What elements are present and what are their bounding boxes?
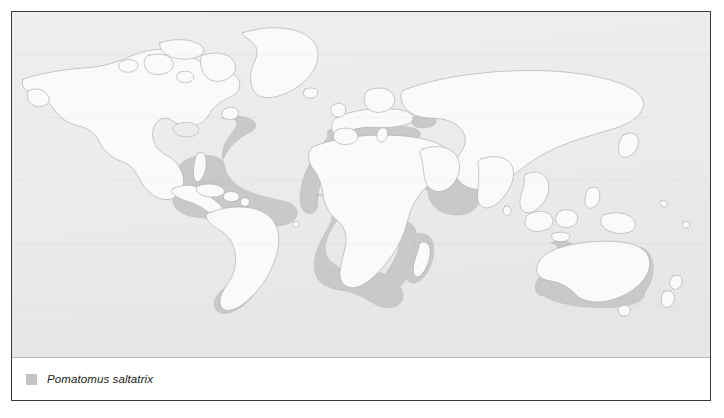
figure-frame: Pomatomus saltatrix [11, 11, 711, 401]
land-iberia [334, 128, 358, 144]
land-java [552, 232, 570, 241]
land-hispaniola [223, 192, 239, 202]
land-iceland [303, 88, 317, 98]
legend-color-swatch [26, 374, 37, 385]
land-great-lakes [173, 122, 199, 137]
land-islet-pacific-a [660, 200, 668, 207]
legend-species-label: Pomatomus saltatrix [47, 373, 153, 385]
land-lesser-antilles [241, 198, 250, 207]
land-victoria-island [144, 54, 173, 74]
land-islet-atlantic-a [293, 222, 299, 227]
land-borneo [556, 210, 578, 228]
land-sumatra [525, 211, 553, 231]
land-arctic-islet-a [119, 60, 138, 73]
land-arctic-islet-b [177, 71, 194, 82]
land-scandinavia [364, 88, 395, 112]
land-islet-pacific-b [682, 221, 690, 228]
map-panel [12, 12, 710, 357]
land-british-isles [331, 103, 346, 117]
land-sri-lanka [503, 206, 511, 215]
world-map-svg [12, 12, 710, 357]
map-legend: Pomatomus saltatrix [12, 358, 710, 400]
